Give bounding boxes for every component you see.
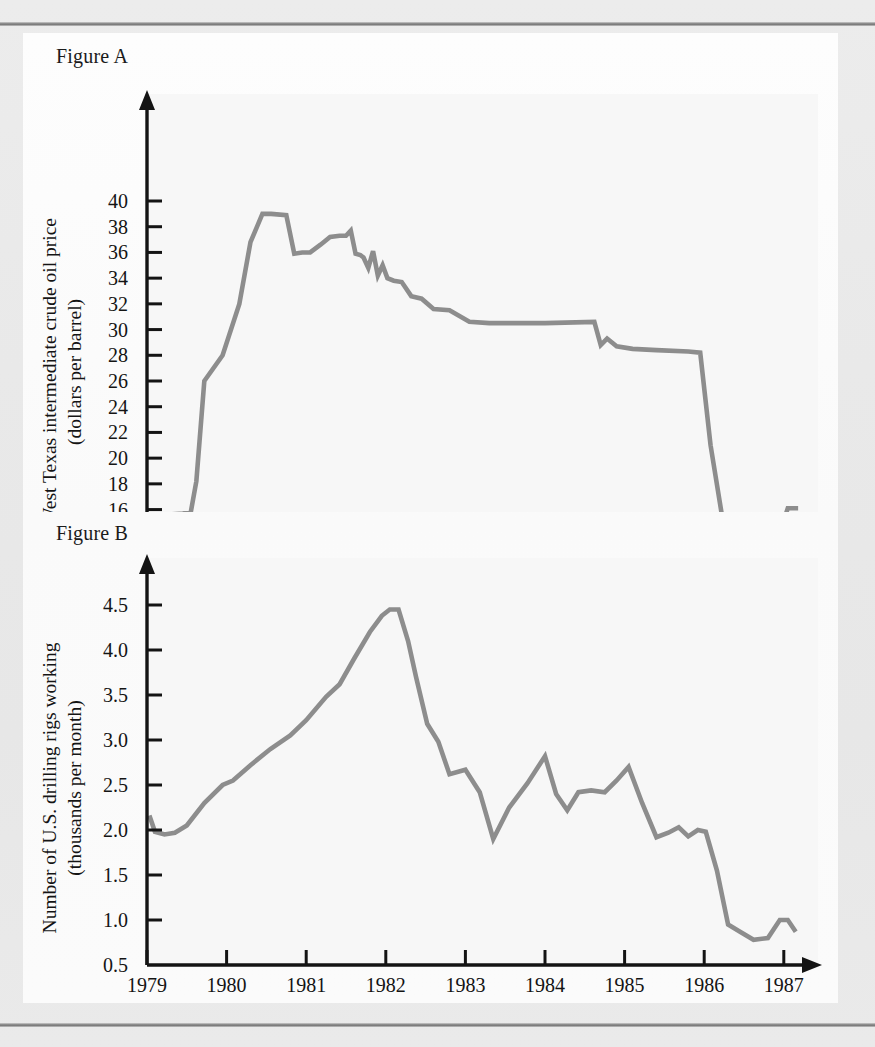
x-axis-tick-label: 1983 bbox=[445, 974, 485, 996]
y-axis-tick-label: 3.0 bbox=[103, 729, 128, 751]
y-axis-tick-label: 3.5 bbox=[103, 684, 128, 706]
y-axis-title: West Texas intermediate crude oil price(… bbox=[39, 218, 86, 512]
y-axis-tick-label: 28 bbox=[108, 344, 128, 366]
y-axis-tick-label: 40 bbox=[108, 190, 128, 212]
figure-a-label: Figure A bbox=[56, 45, 128, 68]
plot-area-background bbox=[147, 94, 818, 512]
x-axis-tick-label: 1985 bbox=[605, 974, 645, 996]
bottom-rule bbox=[0, 1023, 875, 1027]
y-axis-tick-label: 18 bbox=[108, 473, 128, 495]
x-axis-tick-label: 1987 bbox=[764, 974, 804, 996]
y-axis-tick-label: 34 bbox=[108, 267, 128, 289]
figure-b-svg: 0.51.01.52.02.53.03.54.04.5 197919801981… bbox=[0, 548, 875, 998]
y-axis-title: Number of U.S. drilling rigs working(tho… bbox=[39, 642, 86, 933]
y-axis-tick-label: 4.0 bbox=[103, 639, 128, 661]
y-axis-tick-label: 16 bbox=[108, 499, 128, 512]
y-axis-title-line-2: (thousands per month) bbox=[64, 700, 86, 875]
y-axis-title-line-2: (dollars per barrel) bbox=[64, 299, 86, 445]
y-axis-tick-label: 20 bbox=[108, 447, 128, 469]
figure-b-chart: 0.51.01.52.02.53.03.54.04.5 197919801981… bbox=[0, 548, 875, 998]
y-axis-tick-label: 4.5 bbox=[103, 594, 128, 616]
y-axis-tick-label: 2.0 bbox=[103, 819, 128, 841]
x-axis-tick-label: 1981 bbox=[286, 974, 326, 996]
figure-a-svg: 121416182022242628303234363840 197919801… bbox=[0, 72, 875, 512]
top-rule bbox=[0, 22, 875, 26]
y-axis-tick-label: 24 bbox=[108, 396, 128, 418]
plot-area-background bbox=[147, 558, 818, 965]
y-axis-tick-label: 30 bbox=[108, 319, 128, 341]
y-axis-tick-label: 0.5 bbox=[103, 954, 128, 976]
figure-a-chart: 121416182022242628303234363840 197919801… bbox=[0, 72, 875, 512]
y-axis-tick-label: 1.0 bbox=[103, 909, 128, 931]
y-axis-tick-label: 2.5 bbox=[103, 774, 128, 796]
y-axis-tick-label: 1.5 bbox=[103, 864, 128, 886]
y-axis-tick-label: 22 bbox=[108, 421, 128, 443]
y-axis-title-line-1: West Texas intermediate crude oil price bbox=[39, 218, 60, 512]
x-axis-tick-label: 1980 bbox=[207, 974, 247, 996]
x-axis-tick-label: 1982 bbox=[366, 974, 406, 996]
x-axis-tick-label: 1986 bbox=[684, 974, 724, 996]
x-axis-tick-label: 1984 bbox=[525, 974, 565, 996]
y-axis-title-line-1: Number of U.S. drilling rigs working bbox=[39, 642, 60, 933]
y-axis-tick-label: 38 bbox=[108, 216, 128, 238]
y-axis-tick-label: 32 bbox=[108, 293, 128, 315]
figure-b-label: Figure B bbox=[56, 522, 128, 545]
x-axis-tick-label: 1979 bbox=[127, 974, 167, 996]
y-axis-tick-label: 36 bbox=[108, 241, 128, 263]
y-axis-tick-label: 26 bbox=[108, 370, 128, 392]
